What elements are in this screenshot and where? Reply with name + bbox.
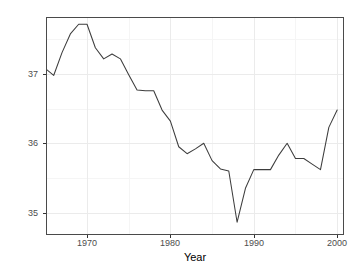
x-tick-mark <box>87 235 88 238</box>
x-tick-label-1980: 1980 <box>150 238 190 249</box>
y-tick-label-37: 37 <box>20 69 38 79</box>
x-axis-title: Year <box>46 251 344 263</box>
plot-panel <box>46 17 344 235</box>
x-axis-title-text: Year <box>184 251 206 263</box>
y-tick-mark <box>43 143 46 144</box>
series-line-hours-per-week <box>47 24 337 222</box>
series-layer <box>47 18 343 234</box>
line-chart: Hours per week 353637 1970198019902000 Y… <box>0 0 363 272</box>
y-tick-label-text: 36 <box>20 138 38 148</box>
x-tick-label-1970: 1970 <box>67 238 107 249</box>
y-tick-label-text: 37 <box>20 69 38 79</box>
x-tick-label-1990: 1990 <box>234 238 274 249</box>
x-tick-mark <box>170 235 171 238</box>
x-tick-label-2000: 2000 <box>317 238 357 249</box>
x-tick-mark <box>254 235 255 238</box>
y-tick-label-35: 35 <box>20 208 38 218</box>
y-tick-label-text: 35 <box>20 208 38 218</box>
y-axis-title: Hours per week <box>0 0 22 272</box>
x-tick-mark <box>337 235 338 238</box>
y-tick-label-36: 36 <box>20 138 38 148</box>
y-tick-mark <box>43 74 46 75</box>
y-tick-mark <box>43 213 46 214</box>
